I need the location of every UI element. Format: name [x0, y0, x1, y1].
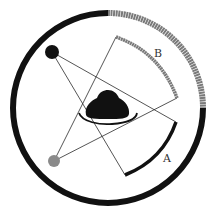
shadow-b-arc [116, 37, 177, 98]
shadow-diagram: B A [0, 0, 215, 215]
black-light-source [45, 45, 59, 59]
label-shadow-a: A [162, 152, 172, 165]
shadow-a-arc [125, 122, 176, 175]
gray-light-source [48, 155, 60, 167]
label-shadow-b: B [154, 47, 162, 60]
object-blob [86, 90, 129, 119]
